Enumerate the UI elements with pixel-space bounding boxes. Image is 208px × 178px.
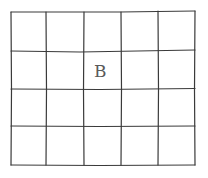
cell-label-b: B	[94, 63, 107, 80]
grid	[0, 0, 208, 178]
grid-column-lines	[46, 11, 159, 165]
